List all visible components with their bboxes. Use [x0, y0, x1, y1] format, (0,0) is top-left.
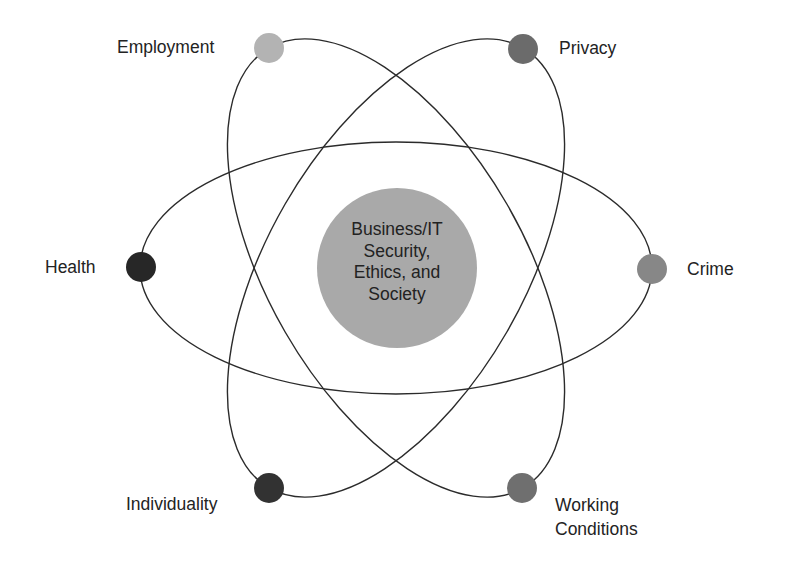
node-health-label: Health — [45, 257, 96, 278]
node-privacy-label: Privacy — [559, 38, 616, 59]
center-hub-label: Business/IT Security, Ethics, and Societ… — [317, 219, 477, 305]
node-working-conditions-dot — [507, 473, 537, 503]
node-employment-label: Employment — [117, 37, 214, 58]
center-line-1: Business/IT — [317, 219, 477, 241]
node-working-conditions-label-line-1: Working — [555, 495, 619, 516]
node-crime-dot — [637, 254, 667, 284]
node-individuality-label: Individuality — [126, 494, 217, 515]
node-health-dot — [126, 252, 156, 282]
center-line-4: Society — [317, 284, 477, 306]
node-privacy-dot — [508, 34, 538, 64]
center-line-2: Security, — [317, 241, 477, 263]
node-crime-label: Crime — [687, 259, 734, 280]
center-line-3: Ethics, and — [317, 262, 477, 284]
node-employment-dot — [254, 33, 284, 63]
node-working-conditions-label-line-2: Conditions — [555, 519, 638, 540]
node-individuality-dot — [254, 473, 284, 503]
